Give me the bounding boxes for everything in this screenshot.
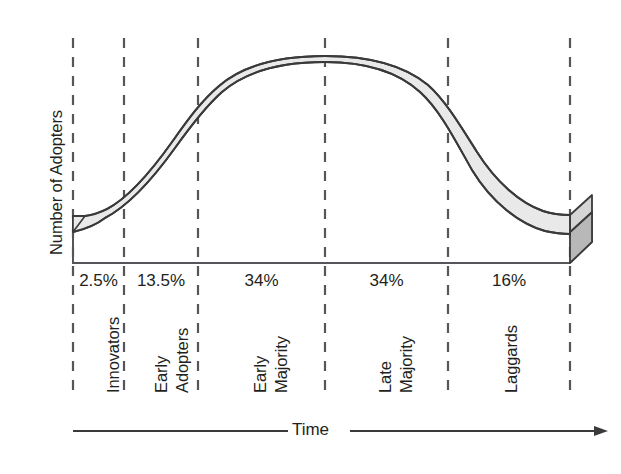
adoption-curve-figure: Number of Adopters 2.5% 13.5% 34% 34% 16…: [0, 0, 621, 474]
segment-label-late-majority-line2: Majority: [397, 273, 416, 393]
band-area: [73, 56, 570, 234]
segment-label-laggards: Laggards: [502, 273, 521, 393]
adoption-curve-graphic: [0, 0, 621, 474]
segment-label-early-majority-line1: Early: [251, 273, 270, 393]
segment-label-innovators: Innovators: [104, 273, 123, 393]
segment-label-early-adopters-line1: Early: [152, 273, 171, 393]
segment-label-early-adopters-line2: Adopters: [173, 273, 192, 393]
plot-baseline-box: [73, 212, 592, 263]
y-axis-title: Number of Adopters: [44, 25, 68, 255]
x-axis-title: Time: [0, 418, 621, 442]
band-lower-edge: [73, 62, 570, 234]
divider-lines: [73, 38, 570, 393]
adoption-band: [73, 56, 592, 263]
segment-label-late-majority-line1: Late: [376, 273, 395, 393]
segment-label-early-majority-line2: Majority: [272, 273, 291, 393]
